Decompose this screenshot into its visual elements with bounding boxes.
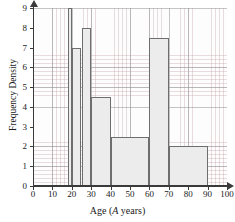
x-axis-tick-label: 80 — [184, 190, 193, 199]
x-axis-title-prefix: Age ( — [90, 205, 113, 216]
x-axis-tick-label: 60 — [145, 190, 154, 199]
histogram-bar — [149, 38, 168, 186]
y-axis-tick — [30, 107, 33, 108]
x-axis-title-suffix: years) — [118, 205, 145, 216]
x-axis-tick-label: 0 — [31, 190, 36, 199]
x-axis-tick-label: 40 — [106, 190, 115, 199]
x-axis-tick-label: 90 — [203, 190, 212, 199]
y-axis-title: Frequency Density — [8, 20, 18, 170]
y-axis-tick — [30, 166, 33, 167]
histogram-bar — [169, 146, 208, 186]
y-axis-tick-label: 9 — [0, 4, 27, 13]
bars-container — [33, 8, 227, 186]
x-axis-tick-label: 10 — [48, 190, 57, 199]
histogram-bar — [82, 28, 92, 186]
histogram-figure: 0102030405060708090100 0123456789 Age (A… — [0, 0, 235, 222]
plot-area — [33, 8, 227, 186]
x-axis-tick-label: 50 — [126, 190, 135, 199]
x-axis-tick-label: 20 — [67, 190, 76, 199]
x-axis-line — [33, 185, 229, 186]
y-axis-tick — [30, 186, 33, 187]
y-axis-tick — [30, 127, 33, 128]
y-axis-tick — [30, 87, 33, 88]
y-axis-tick — [30, 67, 33, 68]
histogram-bar — [91, 97, 110, 186]
x-axis-tick-label: 30 — [87, 190, 96, 199]
histogram-bar — [111, 137, 150, 186]
histogram-bar — [72, 48, 82, 186]
y-axis-line — [33, 6, 34, 186]
y-axis-tick — [30, 28, 33, 29]
x-axis-tick-label: 70 — [164, 190, 173, 199]
y-axis-arrow-icon — [30, 0, 38, 7]
y-axis-tick-label: 0 — [0, 182, 27, 191]
y-axis-tick — [30, 48, 33, 49]
x-axis-tick-label: 100 — [220, 190, 234, 199]
y-axis-tick — [30, 8, 33, 9]
y-axis-tick — [30, 146, 33, 147]
x-axis-title: Age (A years) — [0, 205, 235, 216]
